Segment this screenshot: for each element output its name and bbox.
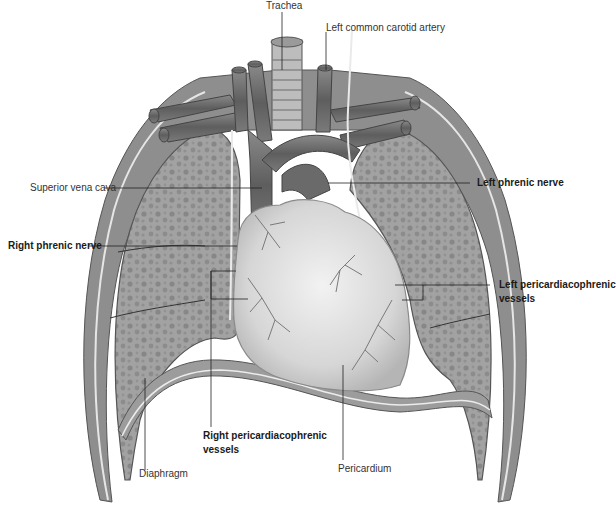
label-diaphragm: Diaphragm — [139, 468, 188, 480]
label-left-pericardiacophrenic-vessels-line2: vessels — [499, 293, 535, 305]
label-right-pericardiacophrenic-vessels-line1: Right pericardiacophrenic — [203, 430, 327, 442]
label-right-phrenic-nerve: Right phrenic nerve — [8, 240, 102, 252]
label-superior-vena-cava: Superior vena cava — [30, 182, 116, 194]
label-pericardium: Pericardium — [338, 463, 391, 475]
label-left-phrenic-nerve: Left phrenic nerve — [477, 177, 564, 189]
label-left-pericardiacophrenic-vessels-line1: Left pericardiacophrenic — [499, 279, 616, 291]
trachea — [271, 37, 303, 130]
label-right-pericardiacophrenic-vessels-line2: vessels — [203, 444, 239, 456]
label-left-common-carotid-artery: Left common carotid artery — [326, 22, 445, 34]
label-trachea: Trachea — [266, 0, 302, 12]
